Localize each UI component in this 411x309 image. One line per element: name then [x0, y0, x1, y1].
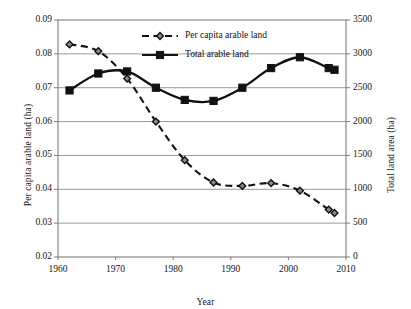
gridlines	[58, 54, 346, 223]
marker-diamond	[210, 179, 217, 186]
legend-label-2: Total arable land	[185, 49, 249, 59]
marker-square	[331, 66, 338, 73]
chart-container: Per capita arable land (ha) Total land a…	[0, 0, 411, 309]
series-line	[70, 44, 335, 213]
marker-square	[296, 54, 303, 61]
marker-square	[210, 97, 217, 104]
marker-diamond	[268, 180, 275, 187]
marker-square	[124, 68, 131, 75]
marker-diamond	[66, 41, 73, 48]
marker-diamond	[297, 187, 304, 194]
marker-square	[66, 87, 73, 94]
series-line	[70, 57, 335, 102]
marker-square	[268, 64, 275, 71]
series-2	[66, 54, 338, 105]
marker-square	[239, 84, 246, 91]
marker-square	[152, 84, 159, 91]
series-1	[66, 41, 338, 216]
plot-svg	[0, 0, 411, 309]
marker-square	[95, 70, 102, 77]
marker-diamond	[239, 183, 246, 190]
marker-square	[181, 96, 188, 103]
legend-label-1: Per capita arable land	[185, 30, 267, 40]
